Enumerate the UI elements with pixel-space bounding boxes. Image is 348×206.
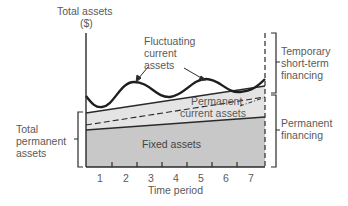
fluctuating-label-3: assets (144, 59, 174, 71)
fluctuating-label-1: Fluctuating (144, 35, 195, 47)
total-permanent-label-3: assets (16, 147, 46, 159)
x-tick-label: 5 (195, 172, 207, 184)
x-tick-label: 7 (245, 172, 257, 184)
y-axis-label: Total assets (57, 5, 112, 17)
y-axis-unit: ($) (80, 17, 93, 29)
temporary-financing-label-1: Temporary (281, 45, 331, 57)
x-axis-label: Time period (148, 184, 203, 196)
total-permanent-label-1: Total (16, 123, 38, 135)
x-tick-label: 3 (145, 172, 157, 184)
fixed-assets-label: Fixed assets (142, 138, 201, 150)
temporary-financing-brace (271, 33, 280, 93)
permanent-current-label-2: current assets (180, 107, 246, 119)
permanent-current-label-1: Permanent (191, 95, 242, 107)
temporary-financing-label-3: financing (281, 69, 323, 81)
permanent-financing-brace (271, 95, 280, 167)
left-brace (74, 112, 83, 167)
fluctuating-label-2: current (144, 47, 177, 59)
x-tick-label: 2 (120, 172, 132, 184)
permanent-financing-label-2: financing (281, 129, 323, 141)
x-tick-label: 6 (220, 172, 232, 184)
x-tick-label: 1 (94, 172, 106, 184)
x-tick-label: 4 (170, 172, 182, 184)
temporary-financing-label-2: short-term (281, 57, 329, 69)
permanent-financing-label-1: Permanent (281, 117, 332, 129)
total-permanent-label-2: permanent (16, 135, 66, 147)
